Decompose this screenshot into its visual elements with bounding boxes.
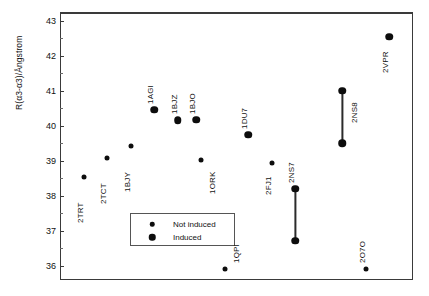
y-tick-minor-mark (60, 178, 63, 179)
data-point (81, 174, 86, 179)
y-tick-minor-mark (60, 248, 63, 249)
data-point (193, 116, 201, 124)
point-label: 2VPR (381, 51, 390, 73)
legend-marker-induced-icon (149, 234, 156, 241)
point-label: 2NS8 (350, 102, 359, 123)
y-tick-minor-mark (60, 38, 63, 39)
point-label: 1QPI (232, 244, 241, 263)
y-tick-minor-mark (60, 108, 63, 109)
legend-row-induced: Induced (131, 230, 234, 244)
y-tick-mark (60, 266, 64, 267)
point-label: 2TRT (76, 202, 85, 223)
y-tick-minor-mark (60, 213, 63, 214)
point-label: 2NS7 (287, 162, 296, 183)
y-tick-label: 39 (38, 156, 56, 166)
legend-label-induced: Induced (173, 233, 201, 242)
data-point (386, 33, 394, 41)
point-label: 1BJZ (170, 95, 179, 114)
data-point (222, 266, 227, 271)
y-tick-mark (60, 126, 64, 127)
y-tick-label: 42 (38, 51, 56, 61)
data-point (292, 237, 300, 245)
data-point (269, 160, 274, 165)
y-tick-label: 41 (38, 86, 56, 96)
point-label: 1DU7 (240, 107, 249, 128)
y-tick-mark (60, 196, 64, 197)
legend-marker-not-induced-icon (150, 222, 155, 227)
point-label: 1ORK (208, 172, 217, 195)
y-tick-label: 40 (38, 121, 56, 131)
data-point (199, 158, 204, 163)
legend: Not induced Induced (130, 213, 235, 246)
y-tick-minor-mark (60, 73, 63, 74)
legend-row-not-induced: Not induced (131, 217, 234, 231)
plot-area (60, 12, 413, 280)
data-point (363, 267, 368, 272)
y-tick-mark (60, 21, 64, 22)
y-axis-label: R(α3-α3)/Ångstrom (14, 0, 24, 110)
legend-label-not-induced: Not induced (173, 220, 216, 229)
point-label: 1BJO (188, 93, 197, 114)
data-point (339, 87, 347, 95)
data-point (292, 185, 300, 193)
data-point (174, 117, 182, 125)
data-point (339, 140, 347, 148)
data-point (245, 131, 253, 139)
y-tick-mark (60, 231, 64, 232)
point-label: 1BJY (123, 172, 132, 192)
y-tick-minor-mark (60, 143, 63, 144)
y-tick-mark (60, 161, 64, 162)
y-axis-tick-labels: 3637383940414243 (34, 0, 56, 296)
y-tick-label: 37 (38, 226, 56, 236)
data-point (150, 106, 158, 114)
range-connector (342, 91, 343, 144)
point-label: 2O7O (358, 241, 367, 263)
y-tick-mark (60, 91, 64, 92)
point-label: 2TCT (99, 183, 108, 204)
y-tick-label: 36 (38, 261, 56, 271)
data-point (128, 143, 133, 148)
scatter-plot-figure: R(α3-α3)/Ångstrom 3637383940414243 Not i… (0, 0, 429, 296)
y-tick-mark (60, 56, 64, 57)
y-tick-label: 43 (38, 16, 56, 26)
range-connector (295, 189, 296, 241)
point-label: 1AGI (146, 85, 155, 104)
data-point (105, 156, 110, 161)
y-tick-label: 38 (38, 191, 56, 201)
point-label: 2FJ1 (264, 176, 273, 195)
